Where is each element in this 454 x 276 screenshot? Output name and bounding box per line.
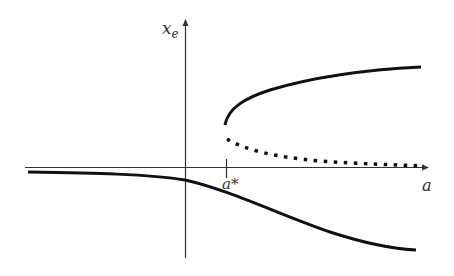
bifurcation-diagram: xe a* a (0, 0, 454, 276)
y-axis-label: xe (162, 18, 179, 41)
upper-stable-branch (225, 67, 421, 125)
unstable-branch (227, 139, 424, 166)
critical-point-label: a* (222, 175, 239, 193)
x-axis-label: a (422, 176, 432, 195)
